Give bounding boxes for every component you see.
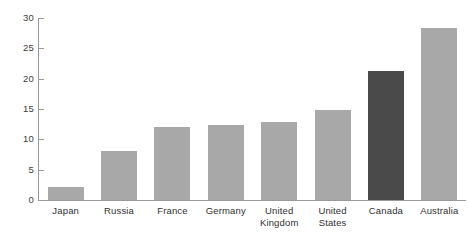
x-axis-label-australia: Australia xyxy=(413,205,466,217)
bar-slot xyxy=(261,18,297,200)
y-axis-tick-mark xyxy=(39,200,44,201)
y-axis-tick-label: 5 xyxy=(29,164,34,175)
bar-japan[interactable] xyxy=(48,187,84,200)
x-axis-label-canada: Canada xyxy=(359,205,412,217)
bar-slot xyxy=(101,18,137,200)
bar-slot xyxy=(368,18,404,200)
bar-slot xyxy=(48,18,84,200)
bar-canada[interactable] xyxy=(368,71,404,200)
x-axis-label-united-states: United States xyxy=(306,205,359,229)
x-axis-line xyxy=(38,200,466,201)
y-axis-tick-label: 15 xyxy=(23,103,34,114)
bar-australia[interactable] xyxy=(421,28,457,200)
bar-russia[interactable] xyxy=(101,151,137,200)
x-axis-labels: JapanRussiaFranceGermanyUnited KingdomUn… xyxy=(39,205,466,243)
bar-slot xyxy=(208,18,244,200)
bar-united-states[interactable] xyxy=(315,110,351,200)
bar-germany[interactable] xyxy=(208,125,244,200)
bar-france[interactable] xyxy=(154,127,190,200)
plot-area xyxy=(39,18,466,200)
y-axis-tick-label: 0 xyxy=(29,194,34,205)
bar-chart: 051015202530 JapanRussiaFranceGermanyUni… xyxy=(0,0,469,243)
bar-slot xyxy=(154,18,190,200)
x-axis-label-russia: Russia xyxy=(92,205,145,217)
y-axis-tick-label: 10 xyxy=(23,133,34,144)
x-axis-label-japan: Japan xyxy=(39,205,92,217)
bar-slot xyxy=(421,18,457,200)
x-axis-label-germany: Germany xyxy=(199,205,252,217)
bar-slot xyxy=(315,18,351,200)
y-axis-tick-label: 25 xyxy=(23,42,34,53)
y-axis-tick-label: 20 xyxy=(23,73,34,84)
y-axis-tick-label: 30 xyxy=(23,12,34,23)
x-axis-label-france: France xyxy=(146,205,199,217)
bar-united-kingdom[interactable] xyxy=(261,122,297,200)
x-axis-label-united-kingdom: United Kingdom xyxy=(253,205,306,229)
